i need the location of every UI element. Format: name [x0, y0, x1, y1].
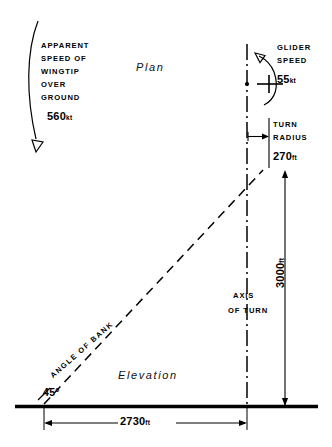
glider-speed-value: 55: [277, 73, 290, 85]
glider-speed-annotation: GLIDER SPEED 55kt: [277, 44, 311, 86]
plan-view-label: Plan: [136, 62, 164, 73]
height-arrowhead-top: [282, 170, 288, 178]
height-dimension-label: 3000ft: [271, 258, 287, 288]
turn-radius-annotation: TURN RADIUS 270ft: [273, 121, 308, 163]
apparent-speed-unit: kt: [66, 114, 72, 121]
elevation-view-label: Elevation: [118, 370, 178, 381]
turn-radius-value: 270: [273, 150, 292, 162]
ground-distance-label: 2730ft: [120, 412, 150, 428]
glider-rotation-arc: [259, 56, 276, 105]
glider-speed-line-1: GLIDER: [277, 44, 311, 52]
glider-rotation-arrowhead: [255, 53, 265, 63]
turn-radius-unit: ft: [292, 154, 297, 161]
apparent-speed-annotation: APPARENT SPEED OF WINGTIP OVER GROUND 56…: [41, 42, 89, 123]
ground-arrowhead-right: [239, 420, 247, 426]
bank-angle-value-label: 45°: [43, 387, 60, 398]
turn-radius-arrowhead-right: [262, 133, 269, 139]
apparent-speed-line-4: OVER: [41, 81, 89, 89]
apparent-speed-line-2: SPEED OF: [41, 55, 89, 63]
ground-arrowhead-left: [44, 420, 52, 426]
turn-radius-value-row: 270ft: [273, 147, 308, 163]
axis-of-turn-label-line-1: AXIS: [233, 292, 254, 300]
glider-speed-value-row: 55kt: [277, 70, 311, 86]
axis-of-turn-label-line-2: OF TURN: [228, 307, 268, 315]
apparent-speed-line-1: APPARENT: [41, 42, 89, 50]
glider-speed-line-2: SPEED: [277, 57, 311, 65]
glider-axis-point: [245, 82, 249, 86]
turn-radius-line-2: RADIUS: [273, 134, 308, 142]
height-unit: ft: [278, 258, 285, 263]
apparent-speed-arc: [29, 21, 38, 139]
height-value: 3000: [274, 263, 286, 288]
bank-angle-value: 45: [43, 386, 55, 398]
apparent-speed-value: 560: [47, 110, 66, 122]
glider-speed-unit: kt: [290, 77, 296, 84]
turn-radius-line-1: TURN: [273, 121, 308, 129]
glider-turn-diagram: APPARENT SPEED OF WINGTIP OVER GROUND 56…: [0, 0, 332, 447]
apparent-speed-line-5: GROUND: [41, 94, 89, 102]
apparent-speed-value-row: 560kt: [47, 107, 89, 123]
degree-symbol: °: [55, 386, 60, 398]
ground-distance-value: 2730: [120, 415, 145, 427]
ground-distance-unit: ft: [145, 419, 150, 426]
apparent-speed-line-3: WINGTIP: [41, 68, 89, 76]
apparent-speed-arrowhead: [32, 140, 43, 152]
